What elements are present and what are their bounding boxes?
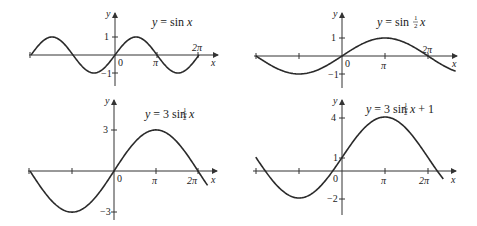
fraction-num: 1 [414, 14, 418, 22]
fraction-den: 2 [414, 22, 418, 30]
pi-label: π [152, 175, 158, 186]
y-tick-label: 1 [333, 152, 338, 163]
fraction-den: 2 [183, 114, 187, 122]
y-tick-label: −1 [328, 69, 339, 80]
two-pi-label: 2π [192, 42, 203, 53]
sine-curve [256, 117, 444, 198]
two-pi-label: 2π [187, 175, 198, 186]
chart-title: y = sin [376, 15, 409, 29]
pi-label: π [153, 57, 159, 68]
chart-title: y = sin x [151, 15, 193, 29]
x-axis-label: x [450, 174, 456, 185]
chart-title: y = 3 sin [365, 102, 407, 116]
pi-label: π [381, 175, 387, 186]
sine-graphs-figure: y x 0 π 2π 1 −1 y = sin x y x 0 π 2π 1 −… [0, 0, 477, 226]
fraction-num: 1 [404, 101, 408, 109]
y-axis-label: y [104, 95, 110, 106]
fraction-den: 2 [404, 109, 408, 117]
y-axis-label: y [332, 8, 338, 19]
fraction-num: 1 [183, 106, 187, 114]
y-axis-label: y [332, 95, 338, 106]
x-axis-label: x [210, 57, 216, 68]
two-pi-label: 2π [419, 175, 430, 186]
origin-label: 0 [117, 173, 122, 184]
y-tick-label: 1 [331, 32, 336, 43]
y-tick-label: −1 [101, 68, 112, 79]
pi-label: π [381, 60, 387, 71]
y-tick-label: 3 [103, 124, 108, 135]
panel-sin-x: y x 0 π 2π 1 −1 y = sin x [29, 8, 218, 86]
title-suffix: x + 1 [409, 102, 434, 116]
origin-label: 0 [345, 58, 350, 69]
y-tick-label: 4 [331, 112, 336, 123]
title-var: x [188, 107, 195, 121]
y-axis-label: y [105, 8, 111, 19]
y-tick-label: −3 [100, 206, 111, 217]
y-tick-label: 1 [104, 31, 109, 42]
title-var: x [419, 15, 426, 29]
chart-title: y = 3 sin [144, 107, 186, 121]
two-pi-label: 2π [422, 44, 433, 55]
origin-label: 0 [118, 57, 123, 68]
y-tick-label: −2 [327, 193, 338, 204]
origin-label: 0 [333, 173, 338, 184]
panel-3sin-half-x-plus-1: y x 0 π 2π 4 1 −2 y = 3 sin 1 2 x + 1 [253, 95, 456, 215]
x-axis-label: x [451, 58, 457, 69]
panel-3sin-half-x: y x 0 π 2π 3 −3 y = 3 sin 1 2 x [28, 95, 217, 220]
x-axis-label: x [210, 174, 216, 185]
panel-sin-half-x: y x 0 π 2π 1 −1 y = sin 1 2 x [254, 8, 457, 88]
